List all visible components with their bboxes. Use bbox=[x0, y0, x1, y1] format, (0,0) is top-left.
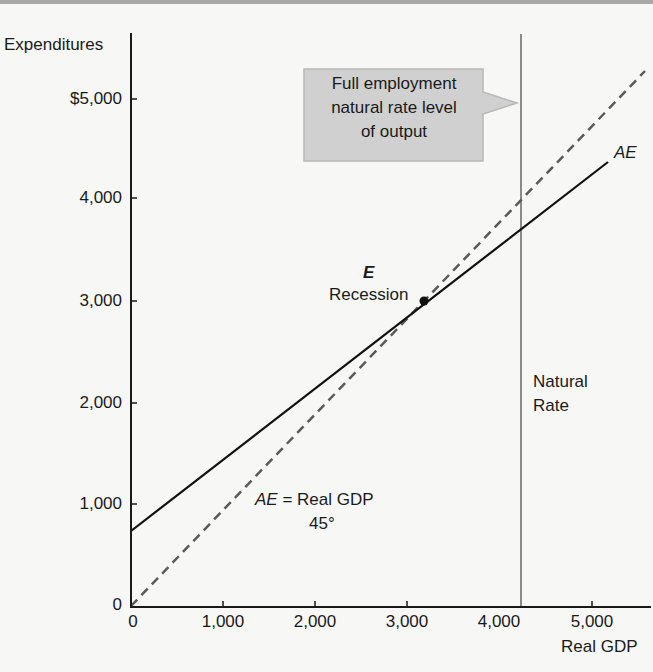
recession-label: Recession bbox=[329, 285, 408, 305]
identity-rest: = Real GDP bbox=[278, 490, 374, 509]
natural-rate-label-line2: Rate bbox=[533, 396, 569, 416]
x-tick-label: 2,000 bbox=[280, 612, 350, 632]
ae-line bbox=[131, 162, 608, 531]
y-tick-label: 3,000 bbox=[10, 291, 122, 311]
callout-line: of output bbox=[304, 120, 484, 144]
ae-line-label: AE bbox=[614, 143, 637, 163]
callout-text: Full employment natural rate level of ou… bbox=[304, 72, 484, 144]
degree-label: 45° bbox=[309, 514, 335, 534]
callout-line: natural rate level bbox=[304, 96, 484, 120]
x-axis-title: Real GDP bbox=[561, 637, 638, 657]
equilibrium-label: E bbox=[363, 263, 374, 283]
identity-ae: AE bbox=[255, 490, 278, 509]
y-axis-title: Expenditures bbox=[4, 35, 103, 55]
y-tick-label: 2,000 bbox=[10, 393, 122, 413]
y-tick-label: 4,000 bbox=[10, 188, 122, 208]
x-tick-label: 4,000 bbox=[464, 612, 534, 632]
x-tick-label: 1,000 bbox=[188, 612, 258, 632]
x-tick-label: 5,000 bbox=[557, 612, 627, 632]
equilibrium-point bbox=[420, 297, 429, 306]
x-tick-label: 0 bbox=[98, 612, 168, 632]
identity-label: AE = Real GDP bbox=[255, 490, 374, 510]
y-tick-label: 1,000 bbox=[10, 494, 122, 514]
callout-line: Full employment bbox=[304, 72, 484, 96]
natural-rate-label-line1: Natural bbox=[533, 372, 588, 392]
y-tick-label: $5,000 bbox=[10, 89, 122, 109]
x-tick-label: 3,000 bbox=[372, 612, 442, 632]
